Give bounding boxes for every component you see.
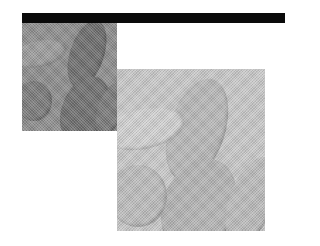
light-image-panel (117, 69, 265, 231)
rounded-form (117, 165, 167, 227)
rounded-form (22, 36, 69, 73)
top-black-bar (22, 13, 285, 23)
dark-image-panel (22, 23, 117, 131)
rounded-form (22, 81, 52, 121)
